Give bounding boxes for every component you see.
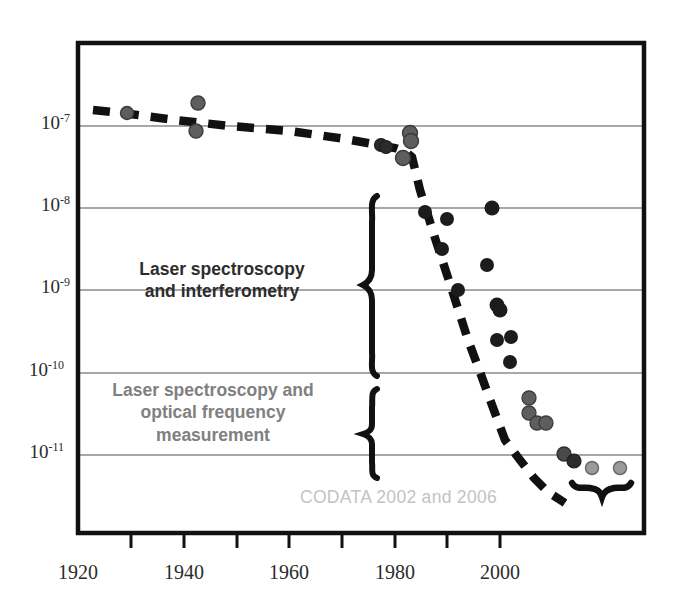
- y-tick-base: 10: [29, 441, 48, 462]
- data-point: [504, 330, 518, 344]
- y-axis-tick-label: 10-11: [8, 442, 64, 461]
- x-axis-tick-label: 1920: [43, 562, 113, 582]
- data-point: [418, 205, 432, 219]
- y-tick-exp: -8: [60, 193, 70, 207]
- y-tick-exp: -7: [60, 111, 70, 125]
- data-point: [189, 124, 203, 138]
- data-point: [380, 141, 393, 154]
- data-point: [396, 151, 411, 166]
- x-axis-tick-label: 1940: [149, 562, 219, 582]
- data-point: [614, 462, 627, 475]
- x-axis-tick-label: 1980: [360, 562, 430, 582]
- y-tick-exp: -11: [48, 440, 64, 454]
- annotation-laser-optical-frequency: Laser spectroscopy and optical frequency…: [82, 379, 344, 446]
- y-tick-base: 10: [41, 194, 60, 215]
- annotation-laser-interferometry: Laser spectroscopy and interferometry: [96, 258, 348, 303]
- data-point: [503, 355, 517, 369]
- data-point: [522, 391, 536, 405]
- y-axis-tick-label: 10-7: [14, 113, 70, 132]
- y-tick-base: 10: [41, 112, 60, 133]
- data-point: [191, 96, 205, 110]
- data-point: [121, 107, 134, 120]
- data-point: [493, 303, 508, 318]
- data-point: [490, 333, 504, 347]
- y-tick-base: 10: [29, 359, 48, 380]
- y-axis-tick-label: 10-8: [14, 195, 70, 214]
- data-point: [404, 134, 419, 149]
- data-point: [586, 462, 599, 475]
- x-axis-tick-label: 1960: [254, 562, 324, 582]
- data-point: [567, 454, 581, 468]
- data-point: [435, 242, 449, 256]
- data-point: [539, 416, 553, 430]
- data-point: [480, 258, 494, 272]
- y-axis-tick-label: 10-9: [14, 277, 70, 296]
- y-tick-base: 10: [41, 276, 60, 297]
- y-axis-tick-label: 10-10: [8, 360, 64, 379]
- y-tick-exp: -10: [48, 358, 64, 372]
- data-point: [451, 283, 465, 297]
- data-point: [440, 212, 454, 226]
- y-tick-exp: -9: [60, 275, 70, 289]
- chart-figure: 10-7 10-8 10-9 10-10 10-11 1920 1940 196…: [0, 0, 686, 614]
- data-point: [485, 201, 500, 216]
- chart-canvas: [0, 0, 686, 614]
- x-axis-tick-label: 2000: [465, 562, 535, 582]
- annotation-codata: CODATA 2002 and 2006: [300, 486, 600, 508]
